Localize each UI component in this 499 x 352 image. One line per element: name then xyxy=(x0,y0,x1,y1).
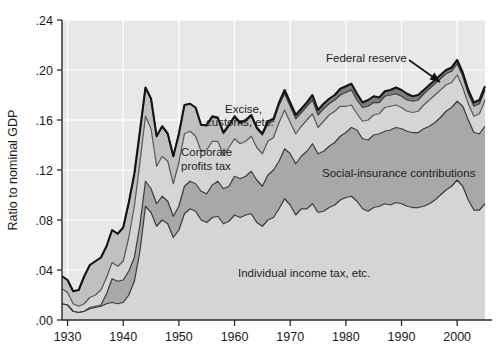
y-axis-ticks: .00.04.08.12.16.20.24 xyxy=(36,14,62,328)
annotation-federal-reserve: Federal reserve xyxy=(326,52,407,64)
y-tick-label: .08 xyxy=(36,214,53,228)
annotation-excise-customs-2: customs, etc. xyxy=(206,116,274,128)
stacked-area-chart: .00.04.08.12.16.20.24 193019401950196019… xyxy=(0,0,499,352)
y-tick-label: .00 xyxy=(36,314,53,328)
annotation-social-insurance: Social-insurance contributions xyxy=(322,167,476,179)
annotation-corporate-profits: Corporate xyxy=(181,146,232,158)
x-tick-label: 1960 xyxy=(221,330,249,344)
annotation-corporate-profits-2: profits tax xyxy=(181,160,231,172)
chart-figure: .00.04.08.12.16.20.24 193019401950196019… xyxy=(0,0,499,352)
y-tick-label: .24 xyxy=(36,14,53,28)
y-axis-title: Ratio to nominal GDP xyxy=(6,110,20,231)
x-tick-label: 1990 xyxy=(388,330,416,344)
y-tick-label: .04 xyxy=(36,264,53,278)
x-tick-label: 1930 xyxy=(54,330,82,344)
y-tick-label: .20 xyxy=(36,64,53,78)
x-tick-label: 1940 xyxy=(109,330,137,344)
x-axis-ticks: 19301940195019601970198019902000 xyxy=(54,320,471,344)
y-tick-label: .12 xyxy=(36,164,53,178)
x-tick-label: 1970 xyxy=(276,330,304,344)
x-tick-label: 1950 xyxy=(165,330,193,344)
annotation-excise-customs: Excise, xyxy=(225,103,262,115)
annotation-individual-income: Individual income tax, etc. xyxy=(238,267,370,279)
x-tick-label: 2000 xyxy=(443,330,471,344)
y-tick-label: .16 xyxy=(36,114,53,128)
x-tick-label: 1980 xyxy=(332,330,360,344)
